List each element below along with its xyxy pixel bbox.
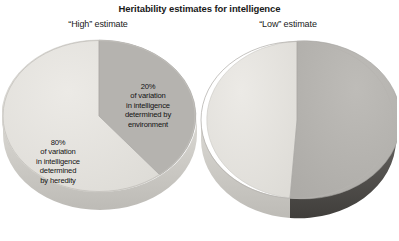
pie-low-svg [200,36,397,241]
pie-chart-high-estimate: 80% of variation in intelligence determi… [2,36,198,236]
panel-subtitle-high: “High” estimate [28,19,168,29]
panel-subtitle-low: “Low” estimate [218,19,358,29]
pie-chart-low-estimate: 40% of variation in intelligence determi… [200,36,397,241]
page-title: Heritability estimates for intelligence [0,3,399,14]
slice-label-environment-high: 20% of variation in intelligence determi… [102,82,194,129]
pie-high-svg [2,36,198,236]
slice-label-heredity-high: 80% of variation in intelligence determi… [10,138,106,185]
figure-container: Heritability estimates for intelligence … [0,0,399,241]
